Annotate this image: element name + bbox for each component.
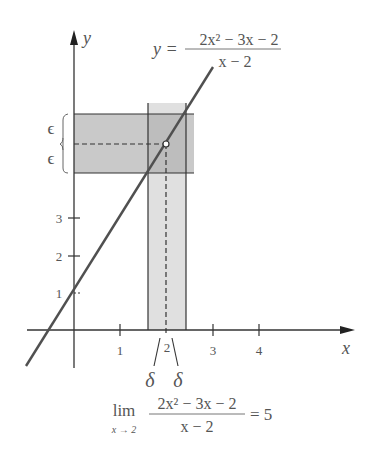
function-label-prefix: y = [151, 39, 178, 59]
x-tick-label-4: 4 [256, 343, 263, 358]
limit-diagram: 1 2 3 4 1 2 3 y x ϵ ϵ δ δ y = 2x² − 3x −… [0, 0, 381, 458]
y-axis-label: y [81, 28, 91, 48]
delta-right-slash [172, 338, 178, 366]
y-tick-label-2: 2 [56, 249, 63, 264]
y-tick-label-3: 3 [56, 211, 63, 226]
delta-label-right: δ [173, 369, 183, 391]
x-tick-label-1: 1 [117, 343, 124, 358]
x-tick-label-2: 2 [164, 340, 171, 355]
delta-left-slash [154, 338, 160, 366]
x-tick-label-3: 3 [210, 343, 217, 358]
function-label-numerator: 2x² − 3x − 2 [200, 31, 279, 48]
x-axis-arrow-icon [340, 326, 355, 334]
limit-result: = 5 [250, 405, 272, 424]
y-axis-arrow-icon [70, 30, 78, 45]
limit-subscript: x → 2 [111, 424, 136, 435]
y-tick-label-1: 1 [56, 286, 63, 301]
limit-lim: lim [113, 401, 136, 420]
limit-denominator: x − 2 [180, 418, 213, 435]
removable-discontinuity-hole [163, 141, 169, 147]
epsilon-label-lower: ϵ [48, 149, 55, 168]
epsilon-brace-upper [60, 114, 68, 150]
epsilon-brace-lower [63, 138, 68, 173]
delta-label-left: δ [145, 369, 155, 391]
epsilon-label-upper: ϵ [48, 119, 55, 138]
limit-numerator: 2x² − 3x − 2 [158, 395, 237, 412]
x-axis-label: x [341, 338, 350, 358]
function-label-denominator: x − 2 [218, 53, 251, 70]
